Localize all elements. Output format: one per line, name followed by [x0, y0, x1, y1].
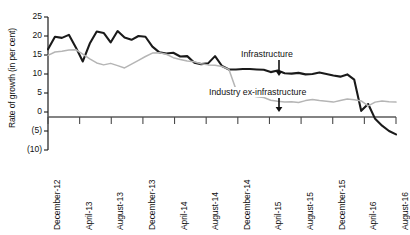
- y-tick-label: (10): [8, 144, 42, 154]
- y-tick-label: 5: [8, 87, 42, 97]
- x-tick-label: April-15: [273, 202, 283, 231]
- x-axis-ticks: [48, 117, 396, 124]
- y-tick-label: 25: [8, 11, 42, 21]
- y-tick-label: (5): [8, 125, 42, 135]
- x-tick-label: April-14: [179, 202, 189, 231]
- annotation-arrow-head: [276, 71, 283, 76]
- series-line-industry-ex-infrastructure: [48, 50, 396, 106]
- annotation-arrows: [276, 60, 283, 112]
- x-tick-label: August-14: [210, 192, 220, 230]
- y-tick-label: 0: [8, 106, 42, 116]
- x-tick-label: August-16: [400, 192, 410, 230]
- x-tick-label: April-13: [84, 202, 94, 231]
- x-tick-label: December-15: [337, 180, 347, 230]
- x-tick-label: August-13: [115, 192, 125, 230]
- series-line-infrastructure: [48, 31, 396, 134]
- series-annotation-industry-ex-infrastructure: Industry ex-infrastructure: [208, 87, 307, 97]
- y-tick-label: 20: [8, 30, 42, 40]
- axes: [48, 17, 396, 150]
- x-tick-label: December-14: [242, 180, 252, 230]
- annotation-arrow-head: [276, 107, 283, 112]
- x-tick-label: August-15: [305, 192, 315, 230]
- series-annotation-infrastructure: Infrastructure: [240, 49, 294, 59]
- x-tick-label: December-12: [52, 180, 62, 230]
- y-tick-label: 15: [8, 49, 42, 59]
- data-series: [48, 31, 396, 134]
- y-tick-label: 10: [8, 68, 42, 78]
- x-tick-label: December-13: [147, 180, 157, 230]
- x-tick-label: April-16: [368, 202, 378, 231]
